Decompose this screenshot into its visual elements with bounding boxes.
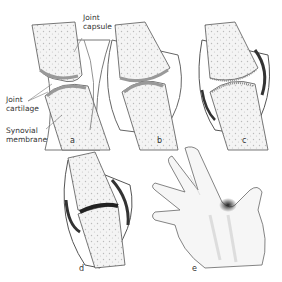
panel-d-joint: [64, 152, 132, 268]
panel-b-joint: [108, 22, 182, 150]
label-joint-capsule: Joint capsule: [83, 13, 112, 31]
panel-letter-e: e: [192, 264, 197, 273]
panel-letter-b: b: [157, 136, 162, 145]
panel-e-hand: [153, 147, 266, 268]
label-synovial-membrane: Synovial membrane: [6, 126, 47, 144]
label-joint-cartilage: Joint cartilage: [6, 95, 39, 113]
panel-letter-c: c: [242, 136, 246, 145]
panel-c-joint: [199, 22, 270, 150]
panel-letter-a: a: [70, 136, 75, 145]
panel-letter-d: d: [79, 264, 84, 273]
